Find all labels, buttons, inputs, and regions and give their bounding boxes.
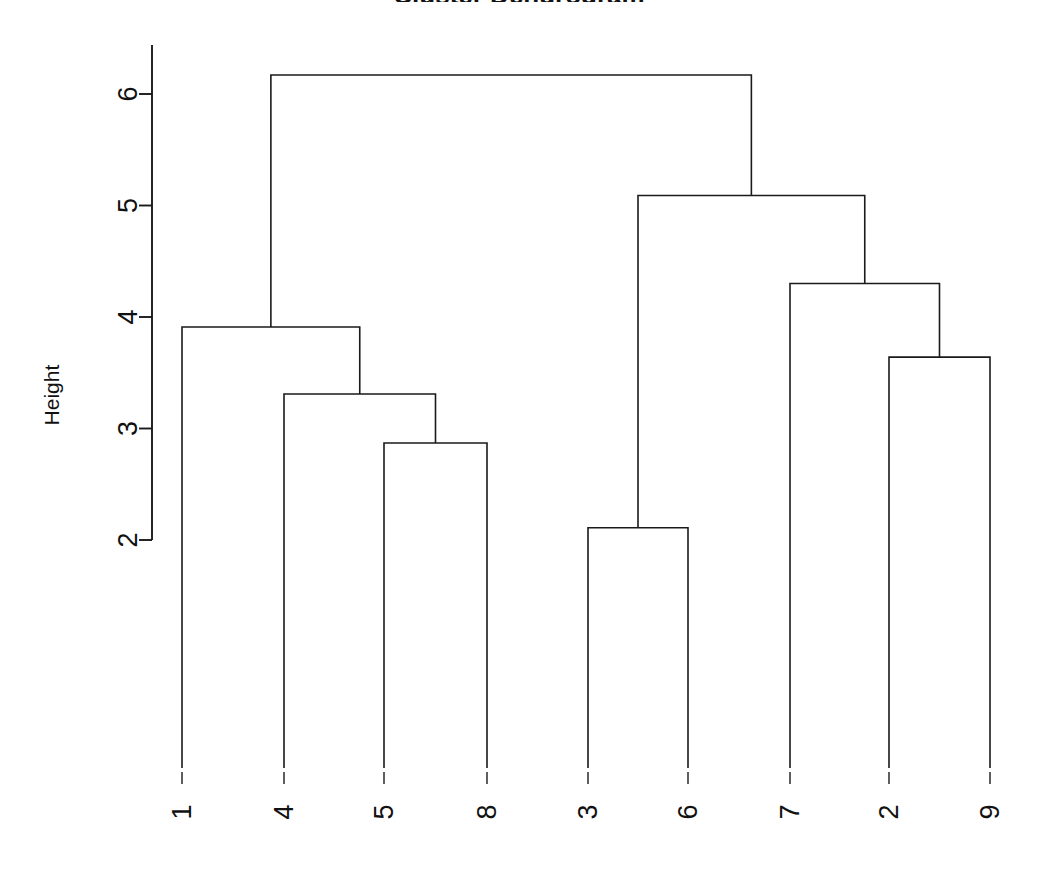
leaf-label-6: 6: [673, 804, 703, 819]
dendrogram-link: [271, 75, 752, 327]
leaf-label-1: 1: [167, 804, 197, 819]
dendrogram-link: [588, 528, 688, 768]
leaf-label-3: 3: [573, 804, 603, 819]
dendrogram-canvas: 23456Height145836729: [0, 0, 1038, 869]
y-axis-tick-label: 3: [113, 421, 143, 436]
dendrogram-link: [384, 443, 487, 768]
leaf-label-8: 8: [472, 804, 502, 819]
y-axis-tick-label: 5: [113, 198, 143, 213]
y-axis-tick-label: 6: [113, 86, 143, 101]
page-title: Cluster Dendrogram: [0, 0, 1038, 2]
dendrogram-link: [284, 394, 436, 768]
y-axis-tick-label: 2: [113, 532, 143, 547]
leaf-label-5: 5: [369, 804, 399, 819]
dendrogram-link: [638, 195, 865, 527]
leaf-label-2: 2: [874, 804, 904, 819]
y-axis-tick-label: 4: [113, 309, 143, 324]
leaf-label-7: 7: [775, 804, 805, 819]
y-axis-title: Height: [41, 365, 64, 426]
dendrogram-link: [790, 284, 940, 768]
cluster-dendrogram-plot: 23456Height145836729 Cluster Dendrogram: [0, 0, 1038, 869]
leaf-label-9: 9: [975, 804, 1005, 819]
leaf-label-4: 4: [269, 804, 299, 819]
dendrogram-link: [889, 357, 990, 768]
